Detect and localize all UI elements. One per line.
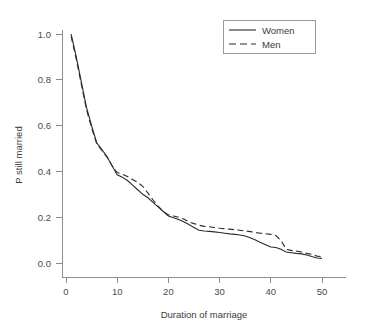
legend-label-men: Men <box>262 39 280 50</box>
y-tick-label: 0.4 <box>38 166 51 177</box>
legend-label-women: Women <box>262 25 295 36</box>
x-tick-label: 20 <box>163 286 174 297</box>
data-series-group <box>71 34 322 258</box>
survival-curve-chart: 0.00.20.40.60.81.0 01020304050 Duration … <box>0 0 377 333</box>
chart-legend: Women Men <box>223 20 315 53</box>
x-tick-label: 30 <box>214 286 225 297</box>
y-tick-label: 0.8 <box>38 74 51 85</box>
y-tick-label: 0.6 <box>38 120 51 131</box>
series-line-women <box>71 34 322 258</box>
x-tick-label: 0 <box>63 286 68 297</box>
x-tick-label: 50 <box>317 286 328 297</box>
series-line-men <box>71 36 322 256</box>
x-tick-label: 40 <box>266 286 277 297</box>
y-axis-title: P still married <box>13 126 24 183</box>
x-axis-title: Duration of marriage <box>161 309 248 320</box>
x-axis-ticks: 01020304050 <box>63 277 327 297</box>
x-tick-label: 10 <box>112 286 123 297</box>
y-tick-label: 1.0 <box>38 29 51 40</box>
y-axis-ticks: 0.00.20.40.60.81.0 <box>38 29 62 269</box>
chart-figure: 0.00.20.40.60.81.0 01020304050 Duration … <box>0 0 377 333</box>
y-tick-label: 0.2 <box>38 212 51 223</box>
y-tick-label: 0.0 <box>38 258 51 269</box>
